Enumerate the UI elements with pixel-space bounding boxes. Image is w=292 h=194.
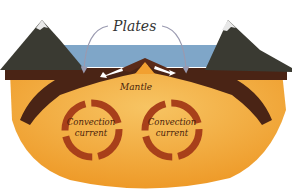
- convection-right-line2: current: [143, 128, 201, 139]
- convection-current-left-label: Convection current: [62, 117, 120, 139]
- convection-right-line1: Convection: [143, 117, 201, 128]
- mountain-right: [205, 20, 292, 72]
- plate-tectonics-diagram: Plates Mantle Convection current Convect…: [0, 0, 292, 194]
- convection-current-right-label: Convection current: [143, 117, 201, 139]
- convection-left-line2: current: [62, 128, 120, 139]
- convection-left-line1: Convection: [62, 117, 120, 128]
- mantle-label: Mantle: [120, 82, 152, 92]
- plates-label: Plates: [113, 18, 156, 34]
